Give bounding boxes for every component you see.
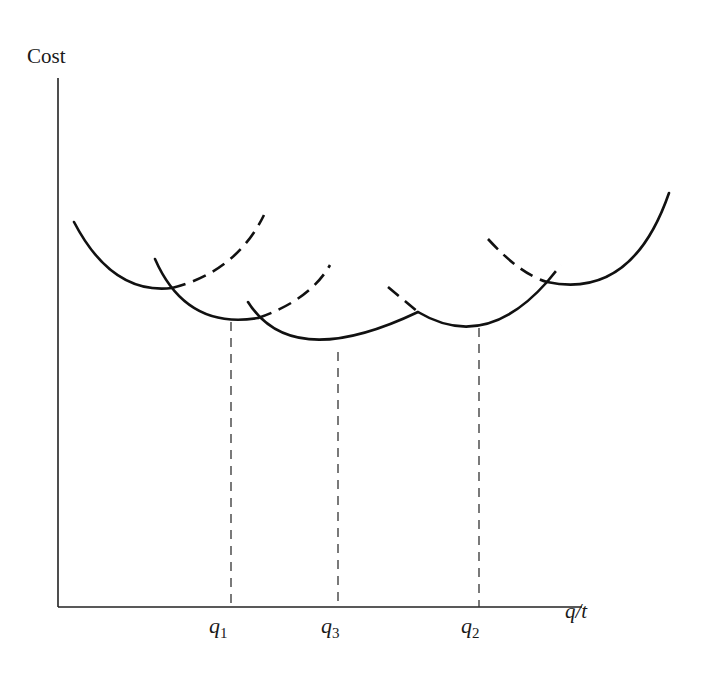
curve-2-dashed [258, 265, 330, 318]
curve-5-solid [547, 193, 669, 285]
diagram-canvas: Cost q/t q1 q3 q2 [0, 0, 702, 676]
y-axis-label: Cost [27, 44, 66, 69]
curve-4-dashed-right [547, 265, 561, 282]
curve-1-solid [74, 222, 172, 289]
marker-q1-label: q1 [209, 613, 228, 642]
x-axis-label: q/t [565, 599, 587, 624]
curve-4-solid [418, 282, 547, 327]
marker-q3-label: q3 [321, 613, 340, 642]
curve-5-dashed [488, 239, 547, 282]
diagram-svg [0, 0, 702, 676]
curve-4-dashed-left [388, 287, 418, 312]
curve-1-dashed [172, 215, 264, 288]
marker-q2-label: q2 [461, 613, 480, 642]
curve-3-solid [248, 302, 418, 340]
